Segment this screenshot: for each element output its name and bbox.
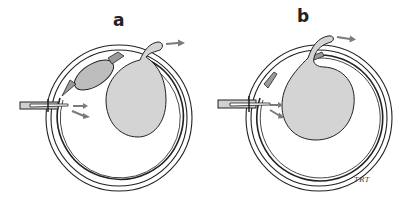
artist-signature: TRT [354,176,370,184]
diagram-panel-a: a [0,0,204,203]
eye-diagram-b [204,0,408,203]
bleb-shape [282,36,354,140]
diagram-panel-b: b TRT [204,0,408,203]
eye-diagram-a [0,0,204,203]
